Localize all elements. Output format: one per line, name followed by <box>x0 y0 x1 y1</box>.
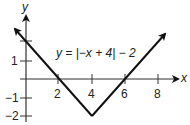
y-tick-label-1: 1 <box>11 54 18 68</box>
x-tick-label-4: 4 <box>88 87 95 101</box>
y-tick-label-neg2: −2 <box>5 109 19 123</box>
x-axis-label: x <box>180 71 188 85</box>
x-tick-label-2: 2 <box>54 87 61 101</box>
x-tick-label-8: 8 <box>154 87 161 101</box>
x-tick-label-6: 6 <box>121 87 128 101</box>
y-axis-label: y <box>21 0 29 14</box>
equation-label: y = |−x + 4| − 2 <box>55 46 136 60</box>
graph: 2 4 6 8 1 −1 −2 x y y = |−x + 4| − 2 <box>0 0 190 125</box>
y-tick-label-neg1: −1 <box>5 91 19 105</box>
